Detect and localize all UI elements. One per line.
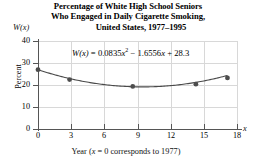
x-axis-variable-text: x — [243, 124, 247, 133]
equation-const-c: 28.3 — [174, 48, 189, 58]
gridline-vertical — [237, 41, 238, 129]
x-axis-tick-label: 6 — [94, 131, 114, 140]
y-axis-tick — [33, 129, 38, 130]
x-axis-tick-label: 15 — [194, 131, 214, 140]
x-axis-variable-label: x — [243, 124, 247, 133]
x-axis-tick — [71, 124, 72, 129]
y-axis-tick — [33, 85, 38, 86]
x-axis-tick — [237, 124, 238, 129]
equation-equals: = — [91, 48, 96, 58]
y-axis-tick-label: 20 — [8, 80, 30, 89]
equation-annotation: W(x) = 0.0835x2 − 1.6556x + 28.3 — [72, 47, 189, 58]
equation-sign-b: − — [131, 48, 136, 58]
chart-title-line-3: United States, 1977–1995 — [0, 22, 256, 32]
equation-coeff-b: 1.6556 — [138, 48, 162, 58]
equation-coeff-a: 0.0835 — [98, 48, 122, 58]
x-axis-tick — [38, 124, 39, 129]
y-axis-variable-text: W(x) — [13, 23, 29, 32]
x-axis-line — [36, 129, 242, 130]
y-axis-title: Percent — [14, 47, 23, 107]
x-axis-tick-label: 0 — [28, 131, 48, 140]
y-axis-line — [38, 39, 39, 131]
y-axis-tick-label: 30 — [8, 58, 30, 67]
x-axis-title-suffix: = 0 corresponds to 1977) — [95, 147, 180, 156]
x-axis-tick-label: 12 — [161, 131, 181, 140]
x-axis-tick — [204, 124, 205, 129]
x-axis-tick-label: 9 — [128, 131, 148, 140]
equation-sign-c: + — [167, 48, 172, 58]
equation-var-b: x — [161, 48, 165, 58]
y-axis-tick — [33, 107, 38, 108]
y-axis-tick-label: 10 — [8, 102, 30, 111]
chart-title-line-1: Percentage of White High School Seniors — [0, 1, 256, 11]
equation-lhs: W(x) — [72, 48, 89, 58]
equation-exponent: 2 — [125, 47, 128, 53]
y-axis-tick-label: 0 — [8, 124, 30, 133]
chart-title-line-2: Who Engaged in Daily Cigarette Smoking, — [0, 11, 256, 21]
gridline-vertical — [204, 41, 205, 129]
x-axis-title: Year (x = 0 corresponds to 1977) — [0, 147, 252, 156]
x-axis-title-prefix: Year ( — [72, 147, 92, 156]
chart-figure: Percentage of White High School Seniors … — [0, 0, 256, 162]
y-axis-tick — [33, 41, 38, 42]
y-axis-tick-label: 40 — [8, 36, 30, 45]
x-axis-tick — [138, 124, 139, 129]
y-axis-tick — [33, 63, 38, 64]
x-axis-tick — [171, 124, 172, 129]
x-axis-tick-label: 3 — [61, 131, 81, 140]
chart-title: Percentage of White High School Seniors … — [0, 1, 256, 32]
y-axis-variable-label: W(x) — [13, 23, 29, 32]
x-axis-tick — [104, 124, 105, 129]
